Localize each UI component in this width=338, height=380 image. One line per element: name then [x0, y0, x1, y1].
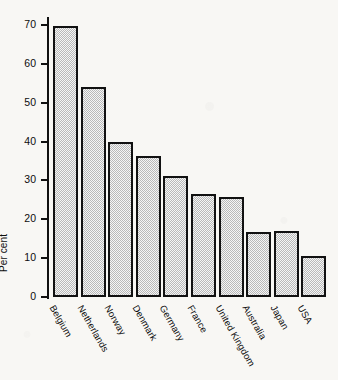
bar — [246, 232, 271, 297]
bar — [81, 87, 106, 297]
bar — [301, 256, 326, 297]
bar — [108, 142, 133, 297]
bar — [53, 26, 78, 297]
bar — [191, 194, 216, 297]
bar — [219, 197, 244, 297]
bar — [136, 156, 161, 297]
bar-chart-figure: 010203040506070 Per cent BelgiumNetherla… — [0, 0, 338, 380]
bar — [163, 176, 188, 297]
bar — [274, 231, 299, 297]
